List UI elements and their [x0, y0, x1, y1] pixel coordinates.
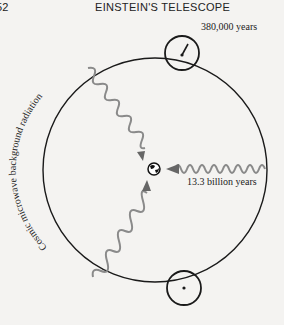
wave-lower-left	[93, 180, 151, 277]
wave-upper-left	[88, 68, 145, 161]
wave-right	[166, 164, 265, 174]
label-13-3-billion-years: 13.3 billion years	[187, 176, 257, 187]
label-380000-years: 380,000 years	[201, 21, 257, 32]
patch-bottom	[167, 271, 201, 305]
cmb-diagram: Cosmic microwave background radiation 38…	[0, 0, 284, 325]
earth-icon	[148, 163, 160, 175]
patch-top	[165, 36, 199, 70]
